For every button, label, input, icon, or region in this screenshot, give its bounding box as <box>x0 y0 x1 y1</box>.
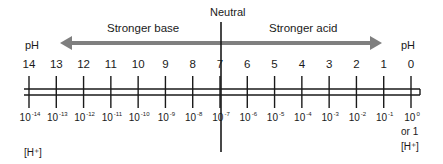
ph-value: 2 <box>353 58 359 70</box>
h-ion-concentration: 10-2 <box>349 111 366 123</box>
h-ion-concentration: 10-1 <box>376 111 393 123</box>
exponent: -7 <box>224 111 229 117</box>
h-ion-concentration: 10-4 <box>294 111 311 123</box>
stronger-base-arrow <box>60 36 221 50</box>
exponent-base: 10 <box>294 112 305 123</box>
exponent: -1 <box>388 111 393 117</box>
ph-value: 0 <box>408 58 414 70</box>
h-ion-label-right: [H⁺] <box>401 141 419 152</box>
h-ion-concentration: 10-6 <box>240 111 257 123</box>
ph-value: 13 <box>50 58 63 70</box>
exponent-base: 10 <box>376 112 387 123</box>
ph-label-left: pH <box>25 39 39 51</box>
exponent-base: 10 <box>47 112 58 123</box>
exponent: -9 <box>170 111 175 117</box>
exponent-base: 10 <box>349 112 360 123</box>
h-ion-concentration: 10-5 <box>267 111 284 123</box>
ph-value: 8 <box>190 58 196 70</box>
exponent: -10 <box>141 111 150 117</box>
exponent-base: 10 <box>404 112 415 123</box>
h-ion-concentration: 10-9 <box>158 111 175 123</box>
h-ion-concentration: 10-14 <box>20 111 41 123</box>
exponent: -11 <box>114 111 122 117</box>
neutral-label: Neutral <box>210 6 245 18</box>
ph-value: 7 <box>217 58 223 70</box>
tick-marks <box>29 76 411 108</box>
h-ion-concentration: 10-8 <box>185 111 202 123</box>
exponent-base: 10 <box>20 112 31 123</box>
ph-label-right: pH <box>401 39 415 51</box>
exponent: -13 <box>59 111 68 117</box>
stronger-acid-arrow <box>221 36 382 50</box>
exponent: -8 <box>197 111 202 117</box>
h-ion-concentration: 10-7 <box>212 111 229 123</box>
ph-value: 10 <box>132 58 145 70</box>
exponent: -14 <box>32 111 41 117</box>
exponent-base: 10 <box>212 112 223 123</box>
h-ion-concentration: 10-10 <box>129 111 150 123</box>
ph-value: 4 <box>299 58 305 70</box>
ph-value: 14 <box>23 58 36 70</box>
exponent: 0 <box>416 111 419 117</box>
ph-value: 9 <box>162 58 168 70</box>
exponent: -4 <box>306 111 311 117</box>
h-ion-label-left: [H⁺] <box>24 147 42 158</box>
ph-value: 1 <box>381 58 387 70</box>
exponent-base: 10 <box>267 112 278 123</box>
exponent: -6 <box>252 111 257 117</box>
h-ion-concentration: 10-13 <box>47 111 68 123</box>
ph-value: 12 <box>77 58 90 70</box>
exponent-base: 10 <box>102 112 113 123</box>
exponent: -2 <box>361 111 366 117</box>
ph-value: 6 <box>244 58 250 70</box>
stronger-base-label: Stronger base <box>107 22 179 34</box>
h-ion-concentration: 10-11 <box>102 111 122 123</box>
exponent-base: 10 <box>129 112 140 123</box>
exponent: -5 <box>279 111 284 117</box>
h-ion-concentration: 10-3 <box>321 111 338 123</box>
ph-value: 5 <box>271 58 277 70</box>
exponent-base: 10 <box>74 112 85 123</box>
exponent-base: 10 <box>240 112 251 123</box>
ph-value: 11 <box>105 58 117 70</box>
h-ion-concentration: 100 <box>404 111 419 123</box>
h-ion-concentration: 10-12 <box>74 111 95 123</box>
stronger-acid-label: Stronger acid <box>269 22 337 34</box>
ph-value: 3 <box>326 58 332 70</box>
or-one-label: or 1 <box>401 126 418 137</box>
exponent: -12 <box>86 111 95 117</box>
exponent-base: 10 <box>185 112 196 123</box>
exponent-base: 10 <box>158 112 169 123</box>
exponent: -3 <box>334 111 339 117</box>
exponent-base: 10 <box>321 112 332 123</box>
ph-scale-graphic <box>0 0 443 164</box>
